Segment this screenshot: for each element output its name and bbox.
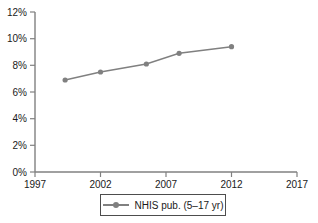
y-tick-label-5: 10%	[7, 33, 27, 44]
legend-marker-icon	[103, 200, 129, 210]
chart-plot-area: 0% 2% 4% 6% 8% 10% 12% 1997 2002 2007 20…	[0, 0, 318, 190]
legend-label-nhis-pub: NHIS pub. (5–17 yr)	[135, 200, 224, 211]
data-point	[98, 69, 103, 74]
y-tick-label-1: 2%	[13, 140, 28, 151]
x-tick-label-2012: 2012	[220, 179, 243, 190]
x-tick-label-2007: 2007	[155, 179, 178, 190]
chart-legend: NHIS pub. (5–17 yr)	[100, 194, 226, 216]
y-axis-ticks	[30, 12, 35, 172]
data-point	[177, 51, 182, 56]
y-tick-label-2: 4%	[13, 113, 28, 124]
x-tick-label-1997: 1997	[24, 179, 47, 190]
data-point	[229, 44, 234, 49]
data-point	[144, 61, 149, 66]
y-tick-label-6: 12%	[7, 7, 27, 18]
x-tick-label-2017: 2017	[286, 179, 309, 190]
y-tick-label-3: 6%	[13, 87, 28, 98]
y-tick-label-4: 8%	[13, 60, 28, 71]
x-axis-ticks	[35, 172, 297, 177]
data-point	[63, 77, 68, 82]
line-chart: 0% 2% 4% 6% 8% 10% 12% 1997 2002 2007 20…	[0, 0, 318, 223]
y-tick-label-0: 0%	[13, 167, 28, 178]
x-tick-label-2002: 2002	[89, 179, 112, 190]
